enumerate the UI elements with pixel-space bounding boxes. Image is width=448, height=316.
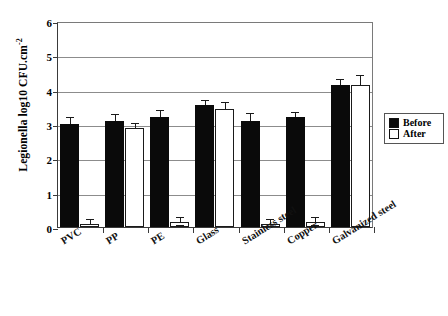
legend-label-after: After bbox=[403, 129, 426, 139]
error-bar-cap-lower bbox=[86, 226, 94, 227]
y-axis-tick-label: 6 bbox=[18, 17, 58, 29]
bar-after bbox=[125, 128, 144, 227]
bar-group bbox=[239, 23, 284, 227]
y-axis-tick-label: 3 bbox=[18, 120, 58, 132]
error-bar-stem bbox=[90, 220, 91, 223]
error-bar-cap bbox=[111, 114, 119, 115]
bar-group bbox=[148, 23, 193, 227]
bar-before bbox=[105, 121, 124, 227]
error-bar-cap bbox=[291, 112, 299, 113]
bar-before bbox=[150, 117, 169, 227]
bar-group bbox=[103, 23, 148, 227]
error-bar-cap bbox=[201, 100, 209, 101]
error-bar-cap bbox=[176, 217, 184, 218]
bar-after bbox=[215, 109, 234, 227]
error-bar-cap bbox=[86, 219, 94, 220]
x-axis-tick-mark bbox=[284, 227, 285, 233]
bar-group bbox=[58, 23, 103, 227]
error-bar-cap bbox=[66, 117, 74, 118]
chart-figure: Legionella log10 CFU.cm-2 0123456 Before… bbox=[0, 0, 448, 316]
chart-legend: Before After bbox=[384, 113, 444, 144]
error-bar-cap bbox=[131, 123, 139, 124]
y-axis-title-exponent: -2 bbox=[15, 38, 24, 45]
x-axis-tick-mark bbox=[329, 227, 330, 233]
y-axis-tick-label: 0 bbox=[18, 223, 58, 235]
bar-group bbox=[329, 23, 374, 227]
error-bar-cap bbox=[311, 217, 319, 218]
bar-group bbox=[193, 23, 238, 227]
error-bar-cap bbox=[336, 79, 344, 80]
plot-area: 0123456 bbox=[57, 22, 373, 228]
y-axis-tick-label: 1 bbox=[18, 189, 58, 201]
error-bar-cap bbox=[156, 110, 164, 111]
error-bar-cap bbox=[356, 75, 364, 76]
bar-before bbox=[195, 105, 214, 227]
bar-group bbox=[284, 23, 329, 227]
legend-item-after: After bbox=[389, 129, 440, 139]
y-axis-tick-mark bbox=[53, 229, 58, 230]
legend-label-before: Before bbox=[403, 118, 431, 128]
error-bar-stem bbox=[70, 118, 71, 124]
legend-swatch-after bbox=[389, 129, 399, 139]
y-axis-tick-label: 5 bbox=[18, 51, 58, 63]
x-axis-tick-mark bbox=[239, 227, 240, 233]
error-bar-cap bbox=[246, 113, 254, 114]
x-axis-tick-mark bbox=[374, 227, 375, 233]
legend-item-before: Before bbox=[389, 118, 440, 128]
error-bar-stem bbox=[180, 218, 181, 222]
x-axis-tick-mark bbox=[103, 227, 104, 233]
bar-before bbox=[331, 85, 350, 227]
error-bar-stem bbox=[160, 111, 161, 117]
bar-after bbox=[351, 85, 370, 227]
error-bar-stem bbox=[135, 124, 136, 128]
bar-before bbox=[241, 121, 260, 227]
error-bar-stem bbox=[340, 80, 341, 84]
error-bar-cap bbox=[221, 102, 229, 103]
error-bar-stem bbox=[295, 113, 296, 117]
y-axis-tick-label: 2 bbox=[18, 154, 58, 166]
x-axis-category-label: PVC bbox=[59, 226, 83, 247]
legend-swatch-before bbox=[389, 118, 399, 128]
error-bar-stem bbox=[250, 114, 251, 120]
error-bar-stem bbox=[225, 103, 226, 108]
x-axis-tick-mark bbox=[193, 227, 194, 233]
x-axis-category-label: PP bbox=[104, 230, 121, 246]
error-bar-stem bbox=[205, 101, 206, 105]
bar-before bbox=[60, 124, 79, 227]
x-axis-tick-mark bbox=[148, 227, 149, 233]
x-axis-category-label: PE bbox=[149, 230, 166, 246]
y-axis-title-text: Legionella log10 CFU.cm bbox=[17, 45, 29, 172]
error-bar-stem bbox=[115, 115, 116, 120]
error-bar-stem bbox=[360, 76, 361, 85]
y-axis-tick-label: 4 bbox=[18, 86, 58, 98]
error-bar-cap-lower bbox=[176, 225, 184, 226]
